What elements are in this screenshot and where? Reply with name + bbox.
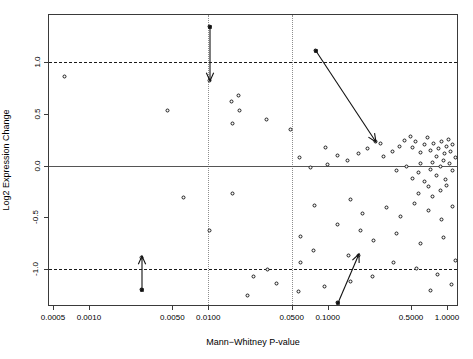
y-tick (44, 114, 49, 115)
data-point (454, 259, 458, 263)
data-point (314, 49, 318, 53)
arrow-up-lower-left (138, 256, 145, 292)
data-point (346, 159, 350, 163)
x-tick-label: 0.0100 (196, 313, 220, 322)
data-point (429, 149, 433, 153)
data-point (140, 288, 144, 292)
data-point (140, 256, 144, 260)
reference-line-y-1 (49, 62, 457, 63)
data-point (357, 254, 361, 258)
data-point (266, 268, 270, 272)
data-point (323, 285, 327, 289)
data-point (299, 235, 303, 239)
data-point (309, 166, 313, 170)
data-point (423, 143, 427, 147)
data-point (454, 156, 458, 160)
x-axis-title: Mann−Whitney P-value (206, 337, 299, 347)
x-tick-label: 0.0050 (160, 313, 184, 322)
data-point (451, 169, 455, 173)
data-point (297, 290, 301, 294)
y-axis-title: Log2 Expression Change (1, 109, 11, 210)
data-point (289, 128, 293, 132)
data-point (391, 150, 395, 154)
data-point (439, 189, 443, 193)
data-point (429, 289, 433, 293)
data-point (419, 242, 423, 246)
data-point (436, 273, 440, 277)
y-tick-label: 0.5 (33, 108, 41, 119)
data-point (372, 239, 376, 243)
data-point (208, 79, 212, 83)
data-point (447, 138, 451, 142)
data-point (419, 162, 423, 166)
data-point (395, 232, 399, 236)
annotation-arrow-layer (49, 15, 459, 307)
data-point (237, 94, 241, 98)
data-point (432, 142, 436, 146)
gridline-vertical-0 (208, 15, 209, 305)
data-point (361, 212, 365, 216)
data-point (427, 185, 431, 189)
data-point (427, 209, 431, 213)
y-tick (44, 62, 49, 63)
data-point (444, 178, 448, 182)
data-point (359, 229, 363, 233)
data-point (371, 275, 375, 279)
data-point (357, 152, 361, 156)
data-point (445, 145, 449, 149)
x-tick-label: 0.0010 (77, 313, 101, 322)
y-tick (44, 217, 49, 218)
data-point (415, 267, 419, 271)
data-point (419, 151, 423, 155)
data-point (411, 146, 415, 150)
data-point (437, 147, 441, 151)
scatter-plot-figure: Log2 Expression Change Mann−Whitney P-va… (0, 0, 473, 359)
x-tick-label: 0.1000 (315, 313, 339, 322)
data-point (231, 192, 235, 196)
data-point (409, 135, 413, 139)
data-point (423, 180, 427, 184)
data-point (417, 171, 421, 175)
data-point (385, 206, 389, 210)
data-point (442, 236, 446, 240)
data-point (399, 215, 403, 219)
data-point (324, 146, 328, 150)
data-point (450, 283, 454, 287)
data-point (275, 282, 279, 286)
data-point (299, 261, 303, 265)
x-tick (292, 305, 293, 310)
data-point (166, 109, 170, 113)
x-tick-label: 0.0005 (41, 313, 65, 322)
data-point (443, 152, 447, 156)
data-point (431, 161, 435, 165)
data-point (403, 139, 407, 143)
y-tick (44, 269, 49, 270)
data-point (336, 154, 340, 158)
data-point (379, 142, 383, 146)
y-tick-label: 1.0 (33, 56, 41, 67)
data-point (382, 155, 386, 159)
data-point (349, 198, 353, 202)
y-tick-label: -1.0 (32, 262, 40, 276)
x-tick (411, 305, 412, 310)
x-tick (208, 305, 209, 310)
data-point (349, 280, 353, 284)
x-tick-label: 0.0500 (279, 313, 303, 322)
data-point (442, 159, 446, 163)
arrow-diagonal-lower-mid (336, 254, 359, 305)
data-point (451, 205, 455, 209)
data-point (417, 192, 421, 196)
data-point (398, 145, 402, 149)
data-point (231, 122, 235, 126)
data-point (431, 195, 435, 199)
data-point (182, 196, 186, 200)
data-point (238, 109, 242, 113)
data-point (347, 254, 351, 258)
data-point (298, 156, 302, 160)
data-point (336, 301, 340, 305)
data-point (374, 140, 378, 144)
data-point (336, 223, 340, 227)
data-point (426, 136, 430, 140)
data-point (429, 168, 433, 172)
data-point (445, 184, 449, 188)
